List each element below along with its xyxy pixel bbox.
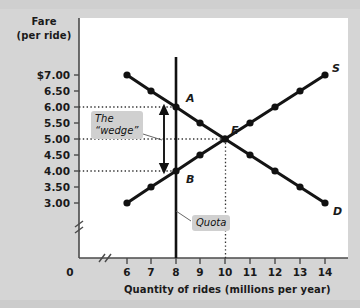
data-point [172, 167, 179, 174]
y-tick-label-550: 5.50 [18, 117, 70, 129]
data-point [271, 103, 278, 110]
y-tick-label-450: 4.50 [18, 149, 70, 161]
y-tick-label-650: 6.50 [18, 85, 70, 97]
data-point [196, 151, 203, 158]
x-tick-label-7: 7 [140, 266, 162, 278]
x-tick-label-11: 11 [239, 266, 261, 278]
point-label-a: A [186, 92, 195, 105]
data-point [123, 199, 130, 206]
x-tick-label-13: 13 [289, 266, 311, 278]
data-point [172, 103, 179, 110]
x-tick-marks [127, 258, 325, 264]
y-tick-label-500: 5.00 [18, 133, 70, 145]
y-tick-label-350: 3.50 [18, 181, 70, 193]
y-axis-title-line2: (per ride) [6, 30, 82, 41]
x-tick-label-6: 6 [116, 266, 138, 278]
supply-curve-label: S [332, 62, 340, 75]
data-point [296, 183, 303, 190]
data-point [296, 87, 303, 94]
x-axis-title: Quantity of rides (millions per year) [124, 284, 331, 295]
data-point [246, 151, 253, 158]
x-tick-label-12: 12 [264, 266, 286, 278]
data-point [321, 71, 328, 78]
y-tick-label-400: 4.00 [18, 165, 70, 177]
data-point [147, 87, 154, 94]
data-point [221, 135, 228, 142]
data-point [196, 119, 203, 126]
x-tick-label-14: 14 [314, 266, 336, 278]
data-point [246, 119, 253, 126]
demand-curve-label: D [333, 205, 342, 218]
quota-leader-line [176, 211, 191, 221]
axis-break-marks [75, 221, 111, 262]
data-point [147, 183, 154, 190]
point-label-e: E [231, 124, 239, 137]
data-point [321, 199, 328, 206]
origin-label: 0 [59, 266, 81, 278]
figure-root: Fare (per ride) $7.00 6.50 6.00 5.50 5.0… [0, 0, 360, 308]
wedge-callout-line1: The [95, 113, 114, 124]
x-tick-label-9: 9 [189, 266, 211, 278]
data-point [271, 167, 278, 174]
y-tick-label-300: 3.00 [18, 197, 70, 209]
y-axis-title-line1: Fare [12, 16, 76, 27]
data-point [123, 71, 130, 78]
y-tick-label-600: 6.00 [18, 101, 70, 113]
wedge-callout: The“wedge” [91, 111, 143, 139]
point-label-b: B [186, 173, 194, 186]
x-tick-label-8: 8 [165, 266, 187, 278]
x-tick-label-10: 10 [214, 266, 236, 278]
wedge-callout-line2: “wedge” [95, 125, 139, 136]
quota-callout: Quota [192, 215, 230, 231]
y-tick-label-700: $7.00 [18, 69, 70, 81]
